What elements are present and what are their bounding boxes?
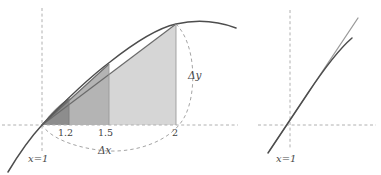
figure-root: 1.2 1.5 2 x=1 Δy Δx	[0, 0, 381, 175]
delta-x-label: Δx	[98, 145, 112, 156]
function-curve-zoomed	[268, 38, 352, 153]
delta-y-label: Δy	[188, 70, 202, 81]
tick-label-2: 2	[172, 128, 178, 138]
x-equals-one-label: x=1	[28, 154, 48, 164]
tick-label-1point5: 1.5	[98, 128, 113, 138]
tick-label-1point2: 1.2	[58, 128, 73, 138]
secant-slope-panel: 1.2 1.5 2 x=1 Δy Δx	[0, 0, 240, 175]
x-equals-one-label-right: x=1	[276, 154, 296, 164]
local-linearity-panel: x=1	[240, 0, 381, 175]
